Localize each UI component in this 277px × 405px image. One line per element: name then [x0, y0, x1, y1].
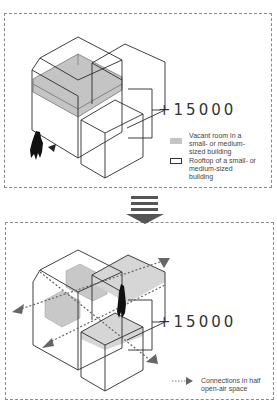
- connection-key-icon: [172, 377, 193, 385]
- top-legend: Vacant room in a small- or medium-sized …: [170, 132, 257, 182]
- arrowhead-left-upper: [12, 304, 24, 314]
- legend-label: Connections in half open-air space: [201, 377, 261, 392]
- legend-label: Vacant room in a small- or medium-sized …: [189, 132, 257, 156]
- elevation-label-top: +15000: [158, 101, 236, 119]
- arrowhead-bottom-right: [146, 354, 158, 364]
- vacant-room-lower: [45, 291, 80, 327]
- elevation-bracket: [128, 89, 152, 138]
- diagram-drawing: [0, 0, 277, 405]
- front-box-outline: [81, 100, 143, 178]
- down-arrow-icon: [126, 196, 164, 224]
- legend-label: Rooftop of a small- or medium-sized buil…: [189, 157, 257, 181]
- legend-item-rooftop: Rooftop of a small- or medium-sized buil…: [170, 157, 257, 181]
- arrowhead-left-lower: [42, 338, 54, 348]
- arrowhead-top-right: [158, 258, 170, 268]
- view-direction-icon: [48, 144, 56, 152]
- bottom-legend: Connections in half open-air space: [201, 377, 263, 393]
- gray-swatch-icon: [170, 138, 182, 144]
- legend-item-vacant-room: Vacant room in a small- or medium-sized …: [170, 132, 257, 156]
- elevation-label-bottom: +15000: [158, 313, 236, 331]
- vacant-room-fill: [33, 54, 122, 117]
- bottom-building-group: [33, 250, 165, 391]
- outline-swatch-icon: [170, 158, 182, 164]
- top-building-group: [32, 37, 165, 178]
